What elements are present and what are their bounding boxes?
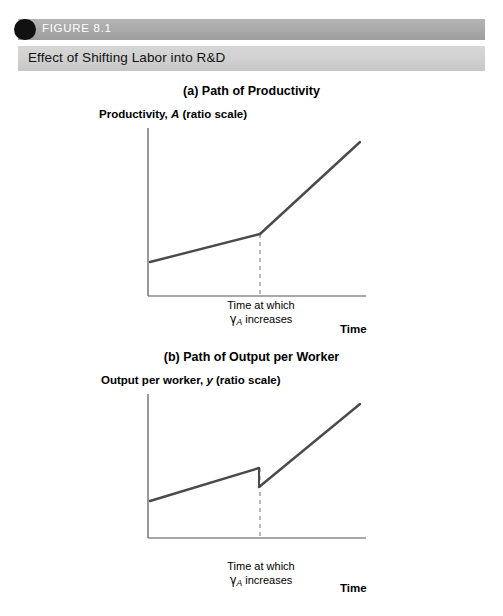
panel-b-x-axis-label: Time — [340, 582, 367, 594]
panel-b-y-axis-label: Output per worker, y (ratio scale) — [101, 374, 281, 386]
panel-b-break-label-increases: increases — [242, 574, 292, 586]
panel-b-break-label-gamma: γ — [230, 573, 237, 587]
panel-a-series-before — [150, 234, 260, 262]
panel-b-chart-svg — [120, 390, 390, 570]
panel-path-of-productivity: (a) Path of Productivity Productivity, A… — [0, 84, 503, 344]
panel-a-y-axis-label: Productivity, A (ratio scale) — [99, 108, 247, 120]
panel-b-heading: (b) Path of Output per Worker — [0, 350, 503, 364]
figure-number-label: FIGURE 8.1 — [42, 22, 112, 34]
panel-a-heading: (a) Path of Productivity — [0, 84, 503, 98]
panel-a-break-label-gamma: γ — [230, 312, 237, 326]
panel-b-y-axis-label-pre: Output per worker, — [101, 374, 206, 386]
panel-path-of-output-per-worker: (b) Path of Output per Worker Output per… — [0, 350, 503, 600]
figure-title-bar: Effect of Shifting Labor into R&D — [18, 46, 485, 71]
panel-a-x-axis-label: Time — [340, 323, 367, 335]
panel-a-plot — [120, 124, 390, 304]
panel-b-series-after — [259, 404, 360, 487]
panel-a-chart-svg — [120, 124, 390, 304]
panel-a-y-axis-label-post: (ratio scale) — [179, 108, 247, 120]
panel-a-series-after — [260, 142, 360, 234]
panel-a-y-axis-label-pre: Productivity, — [99, 108, 171, 120]
panel-b-series-before — [150, 468, 259, 501]
panel-a-break-label-increases: increases — [242, 313, 292, 325]
panel-b-y-axis-label-post: (ratio scale) — [213, 374, 281, 386]
panel-a-break-label: Time at which γA increases — [191, 298, 331, 329]
panel-a-break-label-line1: Time at which — [227, 299, 294, 311]
panel-b-plot — [120, 390, 390, 570]
panel-b-break-label-line1: Time at which — [227, 560, 294, 572]
figure-header: FIGURE 8.1 — [18, 19, 485, 40]
figure-title: Effect of Shifting Labor into R&D — [28, 50, 225, 65]
figure-bullet-icon — [14, 19, 36, 40]
panel-b-break-label: Time at which γA increases — [191, 559, 331, 590]
